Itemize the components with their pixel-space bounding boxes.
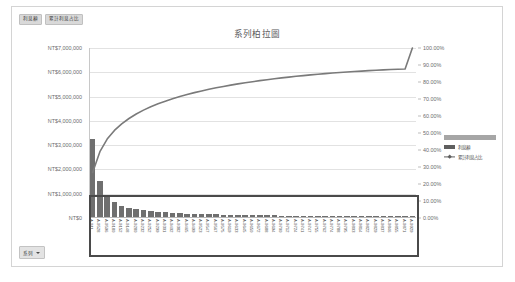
- field-button-value[interactable]: 利息額: [19, 14, 42, 25]
- category-axis-tick-label: A-9148: [125, 219, 130, 232]
- category-axis-tick-label: A-9929: [409, 219, 414, 232]
- category-axis-tick-label: A-9402: [169, 219, 174, 232]
- category-axis-tick-label: A-9252: [147, 219, 152, 232]
- right-axis-tick-label: 30.00%: [423, 164, 441, 170]
- right-axis-tick-label: 100.00%: [423, 45, 444, 51]
- right-axis-tick-label: 0.00%: [423, 215, 438, 221]
- category-axis-tick-label: A-9755: [314, 219, 319, 232]
- category-axis-tick-label: A-9694: [271, 219, 276, 232]
- category-axis-tick-label: A-9688: [264, 219, 269, 232]
- category-axis-tick-label: A-9299: [155, 219, 160, 232]
- line-marker-swatch-icon: [444, 155, 455, 159]
- category-axis-tick-label: A-9523: [198, 219, 203, 232]
- category-axis-tick-label: A-9180: [111, 219, 116, 232]
- right-axis-tick-mark: [418, 150, 421, 151]
- right-axis-tick-mark: [418, 65, 421, 66]
- right-axis-tick-label: 40.00%: [423, 147, 441, 153]
- category-axis-tick-label: A-9795: [343, 219, 348, 232]
- plot-area: [89, 48, 416, 218]
- legend-label-interest-amount: 利息額: [458, 144, 470, 150]
- right-axis-tick-label: 10.00%: [423, 198, 441, 204]
- right-axis-tick-mark: [418, 116, 421, 117]
- chart-title: 系列柏拉圖: [12, 27, 502, 39]
- right-axis-tick-label: 50.00%: [423, 130, 441, 136]
- chart-legend: 利息額 累計利息占比: [444, 135, 500, 160]
- category-axis-tick-label: A-9633: [234, 219, 239, 232]
- right-axis-tick-label: 60.00%: [423, 113, 441, 119]
- right-axis-tick-mark: [418, 201, 421, 202]
- category-axis-tick-label: A-9724: [293, 219, 298, 232]
- right-axis-tick-mark: [418, 184, 421, 185]
- category-axis-labels: A-911A-9528A-9596A-9180A-9152A-9148A-928…: [89, 219, 416, 263]
- left-axis-tick-label: NT$5,000,000: [48, 94, 82, 100]
- category-axis-tick-label: A-9575: [220, 219, 225, 232]
- right-axis-tick-label: 20.00%: [423, 181, 441, 187]
- category-axis-tick-label: A-9712: [285, 219, 290, 232]
- right-axis-tick-label: 90.00%: [423, 62, 441, 68]
- category-axis-tick-label: A-9855: [394, 219, 399, 232]
- category-axis-tick-label: A-9741: [300, 219, 305, 232]
- left-axis-tick-label: NT$7,000,000: [48, 45, 82, 51]
- legend-item-interest-amount[interactable]: 利息額: [444, 144, 500, 150]
- category-axis-tick-label: A-9280: [133, 219, 138, 232]
- category-axis-tick-label: A-9547: [205, 219, 210, 232]
- right-axis-tick-mark: [418, 167, 421, 168]
- chevron-down-icon: [36, 252, 40, 254]
- left-axis-tick-label: NT$0: [69, 215, 82, 221]
- field-button-cumulative[interactable]: 累計利息占比: [45, 14, 83, 25]
- line-series-cumulative-ratio: [89, 48, 416, 218]
- right-axis-tick-mark: [418, 82, 421, 83]
- pivot-chart-frame[interactable]: 利息額 累計利息占比 系列柏拉圖 NT$0NT$1,000,000NT$2,00…: [11, 6, 503, 267]
- category-axis-tick-label: A-9301: [162, 219, 167, 232]
- pivot-field-buttons: 利息額 累計利息占比: [19, 14, 83, 25]
- left-value-axis: NT$0NT$1,000,000NT$2,000,000NT$3,000,000…: [12, 48, 86, 218]
- left-axis-tick-label: NT$2,000,000: [48, 166, 82, 172]
- category-axis-tick-label: A-9672: [256, 219, 261, 232]
- legend-header-bar: [444, 135, 496, 140]
- category-axis-tick-label: A-9645: [242, 219, 247, 232]
- category-axis-tick-label: A-9499: [191, 219, 196, 232]
- category-axis-tick-label: A-9837: [380, 219, 385, 232]
- category-axis-tick-label: A-9700: [278, 219, 283, 232]
- category-axis-tick-label: A-9567: [213, 219, 218, 232]
- bar-swatch-icon: [444, 145, 455, 148]
- series-filter-button[interactable]: 系列: [19, 246, 45, 259]
- category-axis-tick-label: A-9846: [387, 219, 392, 232]
- category-axis-tick-label: A-9822: [365, 219, 370, 232]
- right-axis-tick-mark: [418, 48, 421, 49]
- category-axis-tick-label: A-9762: [322, 219, 327, 232]
- right-percent-axis: 0.00%10.00%20.00%30.00%40.00%50.00%60.00…: [418, 48, 464, 218]
- left-axis-tick-label: NT$3,000,000: [48, 142, 82, 148]
- right-axis-tick-mark: [418, 218, 421, 219]
- category-axis-tick-label: A-9747: [307, 219, 312, 232]
- category-axis-tick-label: A-9528: [96, 219, 101, 232]
- category-axis-tick-label: A-911: [89, 219, 94, 230]
- category-axis-tick-label: A-9788: [336, 219, 341, 232]
- category-axis-tick-label: A-9803: [351, 219, 356, 232]
- category-axis-tick-label: A-9465: [184, 219, 189, 232]
- category-axis-tick-label: A-9382: [176, 219, 181, 232]
- right-axis-tick-label: 80.00%: [423, 79, 441, 85]
- right-axis-tick-mark: [418, 99, 421, 100]
- category-axis-tick-label: A-9232: [140, 219, 145, 232]
- left-axis-tick-label: NT$6,000,000: [48, 69, 82, 75]
- category-axis-tick-label: A-9871: [402, 219, 407, 232]
- left-axis-tick-label: NT$4,000,000: [48, 118, 82, 124]
- right-axis-tick-label: 70.00%: [423, 96, 441, 102]
- series-filter-label: 系列: [23, 250, 33, 256]
- category-axis-tick-label: A-9619: [227, 219, 232, 232]
- right-axis-tick-mark: [418, 133, 421, 134]
- category-axis-tick-label: A-9829: [373, 219, 378, 232]
- category-axis-tick-label: A-9814: [358, 219, 363, 232]
- category-axis-tick-label: A-9596: [104, 219, 109, 232]
- legend-item-cumulative-ratio[interactable]: 累計利息占比: [444, 154, 500, 160]
- category-axis-tick-label: A-9650: [249, 219, 254, 232]
- left-axis-tick-label: NT$1,000,000: [48, 191, 82, 197]
- category-axis-tick-label: A-9774: [329, 219, 334, 232]
- category-axis-tick-label: A-9152: [118, 219, 123, 232]
- legend-label-cumulative-ratio: 累計利息占比: [458, 154, 482, 160]
